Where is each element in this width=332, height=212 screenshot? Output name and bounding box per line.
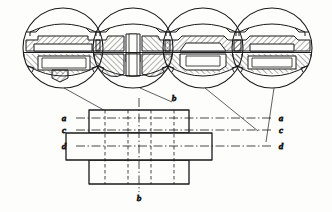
detail-view-d: [229, 8, 317, 88]
technical-drawing-canvas: a c d a c d b b: [0, 0, 332, 212]
label-b-top: b: [172, 93, 177, 103]
drawing-sheet: a c d a c d b b: [0, 0, 332, 212]
leader-line-4: [266, 88, 274, 142]
leader-line-3: [205, 88, 258, 131]
label-b-bottom: b: [137, 193, 142, 203]
label-d-left: d: [62, 141, 67, 151]
label-a-right: a: [279, 113, 284, 123]
label-c-left: c: [62, 125, 66, 135]
leader-line-2: [140, 88, 172, 102]
label-d-right: d: [279, 141, 284, 151]
label-c-right: c: [279, 125, 283, 135]
label-a-left: a: [62, 113, 67, 123]
plan-view: [66, 98, 272, 192]
detail-view-a: [20, 8, 108, 88]
